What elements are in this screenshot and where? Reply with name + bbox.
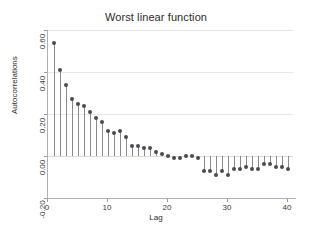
data-point-lag-40 bbox=[286, 167, 290, 171]
data-point-lag-19 bbox=[160, 152, 164, 156]
y-tick-label-0.00: 0.00 bbox=[38, 156, 47, 180]
data-point-lag-7 bbox=[88, 110, 92, 114]
data-point-lag-29 bbox=[220, 169, 224, 173]
data-point-lag-23 bbox=[184, 154, 188, 158]
data-point-lag-30 bbox=[226, 173, 230, 177]
data-point-lag-3 bbox=[64, 83, 68, 87]
y-axis-line bbox=[47, 30, 48, 199]
stem-lag-1 bbox=[54, 43, 55, 156]
data-point-lag-17 bbox=[148, 146, 152, 150]
x-tick-0 bbox=[47, 199, 48, 202]
gridline-y-3 bbox=[48, 72, 293, 73]
data-point-lag-32 bbox=[238, 167, 242, 171]
data-point-lag-34 bbox=[250, 167, 254, 171]
data-point-lag-14 bbox=[130, 144, 134, 148]
data-point-lag-15 bbox=[136, 144, 140, 148]
data-point-lag-38 bbox=[274, 165, 278, 169]
chart-title: Worst linear function bbox=[0, 11, 312, 23]
data-point-lag-35 bbox=[256, 167, 260, 171]
stem-lag-8 bbox=[96, 118, 97, 156]
x-tick-label-40: 40 bbox=[277, 203, 297, 212]
x-tick-20 bbox=[167, 199, 168, 202]
data-point-lag-9 bbox=[100, 120, 104, 124]
data-point-lag-26 bbox=[202, 169, 206, 173]
data-point-lag-13 bbox=[124, 135, 128, 139]
x-tick-label-10: 10 bbox=[97, 203, 117, 212]
x-tick-label-30: 30 bbox=[217, 203, 237, 212]
data-point-lag-2 bbox=[58, 68, 62, 72]
x-tick-label-0: 0 bbox=[37, 203, 57, 212]
stem-lag-13 bbox=[126, 137, 127, 156]
plot-inner bbox=[48, 30, 293, 198]
data-point-lag-11 bbox=[112, 131, 116, 135]
stem-lag-4 bbox=[72, 99, 73, 156]
stem-lag-12 bbox=[120, 131, 121, 156]
x-axis-title: Lag bbox=[0, 213, 312, 222]
stem-lag-3 bbox=[66, 85, 67, 156]
data-point-lag-22 bbox=[178, 156, 182, 160]
x-axis-line bbox=[44, 198, 296, 199]
data-point-lag-21 bbox=[172, 156, 176, 160]
data-point-lag-6 bbox=[82, 104, 86, 108]
x-tick-label-20: 20 bbox=[157, 203, 177, 212]
data-point-lag-28 bbox=[214, 173, 218, 177]
data-point-lag-20 bbox=[166, 154, 170, 158]
data-point-lag-5 bbox=[76, 102, 80, 106]
data-point-lag-24 bbox=[190, 154, 194, 158]
data-point-lag-27 bbox=[208, 169, 212, 173]
plot-area bbox=[47, 30, 293, 198]
stem-lag-2 bbox=[60, 70, 61, 156]
x-tick-10 bbox=[107, 199, 108, 202]
data-point-lag-33 bbox=[244, 165, 248, 169]
data-point-lag-4 bbox=[70, 97, 74, 101]
zero-line bbox=[48, 156, 293, 157]
stem-lag-11 bbox=[114, 133, 115, 156]
data-point-lag-39 bbox=[280, 165, 284, 169]
data-point-lag-37 bbox=[268, 162, 272, 166]
data-point-lag-8 bbox=[94, 116, 98, 120]
data-point-lag-31 bbox=[232, 167, 236, 171]
y-axis-title: Autocorrelations bbox=[10, 56, 19, 114]
chart-screenshot: Worst linear function Autocorrelations -… bbox=[0, 0, 312, 249]
stem-lag-5 bbox=[78, 104, 79, 157]
gridline-y-4 bbox=[48, 30, 293, 31]
stem-lag-6 bbox=[84, 106, 85, 156]
y-tick-label-0.20: 0.20 bbox=[38, 114, 47, 138]
x-tick-40 bbox=[287, 199, 288, 202]
y-tick-label-0.60: 0.60 bbox=[38, 30, 47, 54]
data-point-lag-25 bbox=[196, 156, 200, 160]
stem-lag-10 bbox=[108, 131, 109, 156]
stem-lag-7 bbox=[90, 112, 91, 156]
plot-region: Worst linear function Autocorrelations -… bbox=[0, 0, 312, 249]
data-point-lag-36 bbox=[262, 162, 266, 166]
data-point-lag-12 bbox=[118, 129, 122, 133]
data-point-lag-18 bbox=[154, 150, 158, 154]
data-point-lag-16 bbox=[142, 146, 146, 150]
y-tick-label-0.40: 0.40 bbox=[38, 72, 47, 96]
x-tick-30 bbox=[227, 199, 228, 202]
data-point-lag-10 bbox=[106, 129, 110, 133]
stem-lag-9 bbox=[102, 122, 103, 156]
data-point-lag-1 bbox=[52, 41, 56, 45]
